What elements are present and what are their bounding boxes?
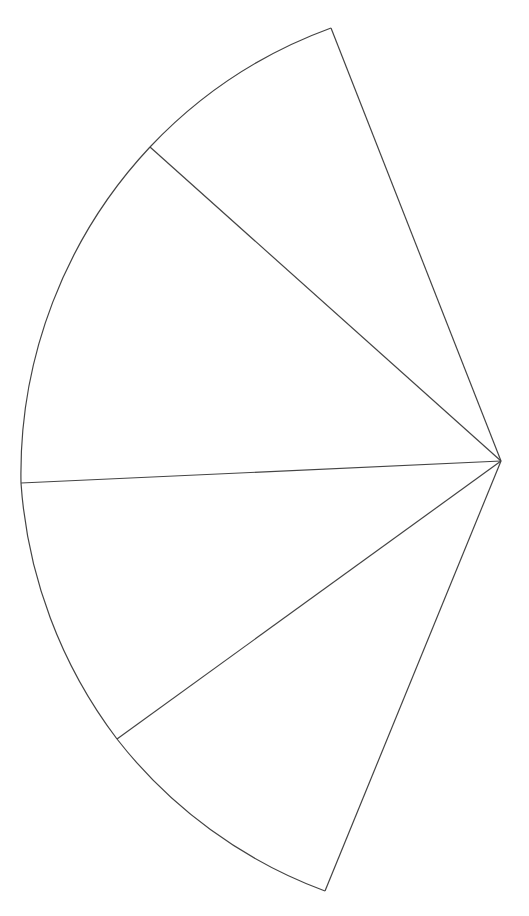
radius-line-lower [117,461,501,739]
sector-4 [117,461,501,891]
radius-line-top [331,28,501,461]
arc-segment-4 [117,739,325,891]
fan-diagram [0,0,529,916]
fan-diagram-svg [0,0,529,916]
radius-line-middle [21,461,501,483]
arc-segment-3 [21,483,117,739]
sector-3 [21,461,501,739]
arc-segment-1 [150,28,331,147]
radius-line-upper [150,147,501,461]
radius-line-bottom [325,461,501,891]
arc-segment-2 [21,147,150,483]
sector-1 [150,28,501,461]
sector-2 [21,147,501,483]
